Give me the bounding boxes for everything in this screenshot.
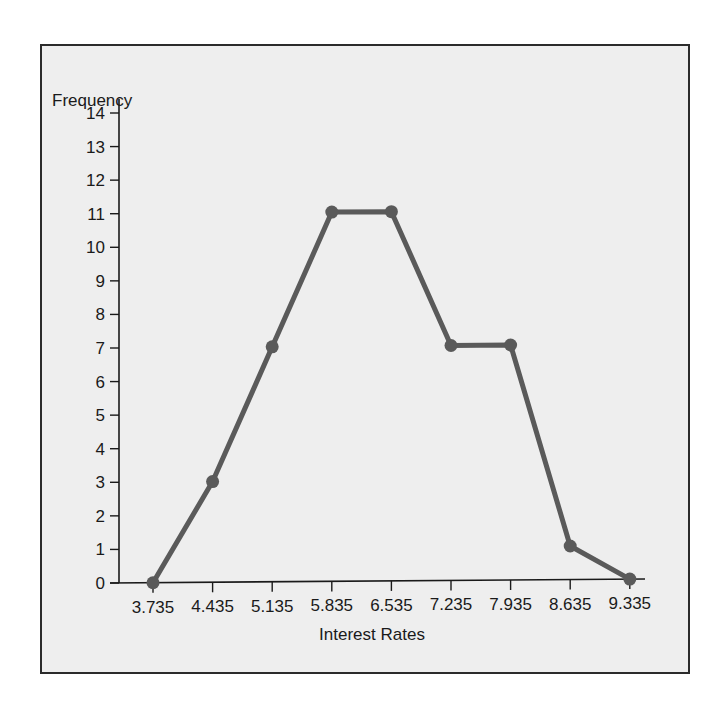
- y-tick-label: 0: [96, 574, 105, 593]
- y-tick-label: 8: [96, 305, 105, 324]
- frequency-line: [153, 212, 630, 583]
- y-tick-label: 9: [96, 272, 105, 291]
- y-axis: 01234567891011121314: [86, 99, 119, 593]
- x-tick-label: 7.935: [489, 595, 532, 614]
- x-tick-label: 4.435: [191, 597, 234, 616]
- data-point-marker: [385, 205, 398, 218]
- data-point-marker: [266, 340, 279, 353]
- data-point-marker: [325, 206, 338, 219]
- y-tick-label: 4: [96, 440, 105, 459]
- y-tick-label: 7: [96, 339, 105, 358]
- x-tick-label: 6.535: [370, 596, 413, 615]
- y-tick-label: 6: [96, 373, 105, 392]
- data-point-marker: [445, 339, 458, 352]
- data-point-marker: [623, 573, 636, 586]
- y-axis-title: Frequency: [52, 91, 133, 110]
- y-tick-label: 5: [96, 406, 105, 425]
- x-axis-title: Interest Rates: [319, 625, 425, 644]
- x-tick-label: 9.335: [609, 594, 652, 613]
- data-point-marker: [206, 475, 219, 488]
- x-tick-label: 3.735: [132, 598, 175, 617]
- frequency-polygon-chart: 01234567891011121314 3.7354.4355.1355.83…: [0, 0, 723, 715]
- x-axis: 3.7354.4355.1355.8356.5357.2357.9358.635…: [110, 579, 651, 617]
- data-point-marker: [564, 539, 577, 552]
- y-tick-label: 12: [86, 171, 105, 190]
- x-tick-label: 5.135: [251, 597, 294, 616]
- y-tick-label: 13: [86, 138, 105, 157]
- y-tick-label: 3: [96, 473, 105, 492]
- data-series: [147, 205, 637, 589]
- y-tick-label: 1: [96, 540, 105, 559]
- y-tick-label: 11: [87, 205, 105, 224]
- y-tick-label: 10: [86, 238, 105, 257]
- x-tick-label: 5.835: [311, 596, 354, 615]
- y-tick-label: 2: [96, 507, 105, 526]
- x-tick-label: 8.635: [549, 595, 592, 614]
- data-point-marker: [504, 339, 517, 352]
- data-point-marker: [147, 576, 160, 589]
- x-tick-label: 7.235: [430, 595, 473, 614]
